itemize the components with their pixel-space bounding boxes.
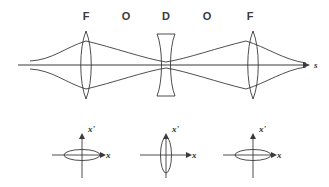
phase3-x-label: x	[276, 150, 282, 160]
phase3-y-arrowhead	[250, 133, 256, 139]
phase-space-plot-2: x x'	[140, 124, 197, 178]
optical-axis	[18, 62, 310, 68]
element-label-d: D	[162, 10, 170, 22]
phase-space-plot-1: x x'	[52, 124, 111, 178]
phase2-y-label: x'	[171, 124, 180, 134]
phase-space-plot-3: x x'	[223, 124, 282, 178]
element-label-o1: O	[122, 10, 131, 22]
phase2-x-label: x	[191, 150, 197, 160]
phase1-y-label: x'	[87, 124, 96, 134]
phase3-y-label: x'	[258, 124, 267, 134]
element-label-o2: O	[203, 10, 212, 22]
phase1-y-arrowhead	[79, 133, 85, 139]
axis-arrowhead	[303, 62, 310, 68]
element-label-f1: F	[83, 10, 90, 22]
axis-label-s: s	[313, 60, 318, 70]
fodo-lattice-diagram: F O D O F s x x'	[0, 0, 329, 187]
element-label-f2: F	[247, 10, 254, 22]
phase1-x-label: x	[105, 150, 111, 160]
